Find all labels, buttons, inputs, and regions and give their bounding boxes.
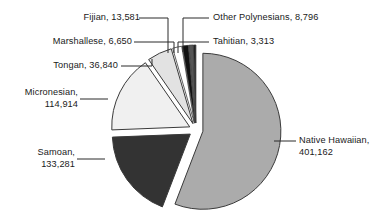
- pie-slices: [112, 45, 281, 209]
- slice-label-native-hawaiian-line2: 401,162: [299, 147, 381, 158]
- slice-label-samoan-line2: 133,281: [5, 159, 75, 170]
- slice-label-tongan: Tongan, 36,840: [24, 60, 118, 71]
- slice-label-fijian: Fijian, 13,581: [64, 12, 140, 23]
- slice-label-samoan-line1: Samoan,: [5, 147, 75, 158]
- slice-label-micronesian-line1: Micronesian,: [6, 87, 78, 98]
- pie-chart-graphic: [0, 0, 381, 222]
- leader-line-fijian: [139, 18, 168, 53]
- slice-label-native-hawaiian-line1: Native Hawaiian,: [299, 135, 381, 146]
- pie-chart-figure: Fijian, 13,581 Other Polynesians, 8,796 …: [0, 0, 381, 222]
- slice-label-micronesian-line2: 114,914: [6, 99, 78, 110]
- slice-label-tahitian: Tahitian, 3,313: [213, 36, 333, 47]
- slice-label-marshallese: Marshallese, 6,650: [34, 36, 132, 47]
- slice-label-other-polynesians: Other Polynesians, 8,796: [213, 12, 373, 23]
